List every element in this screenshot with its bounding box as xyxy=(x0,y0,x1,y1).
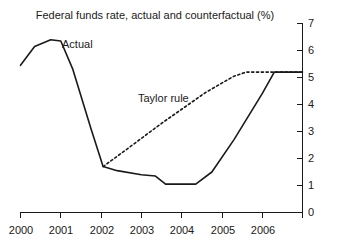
y-tick-label-0: 0 xyxy=(308,207,314,218)
x-tick-label-2006: 2006 xyxy=(251,225,275,236)
y-tick-label-3: 3 xyxy=(308,126,314,137)
chart-plot-area xyxy=(0,0,342,251)
series-line-taylor-rule xyxy=(103,72,302,167)
y-tick-label-6: 6 xyxy=(308,45,314,56)
y-tick-label-1: 1 xyxy=(308,180,314,191)
x-tick-label-2000: 2000 xyxy=(9,225,33,236)
series-line-actual xyxy=(21,40,303,184)
y-tick-label-5: 5 xyxy=(308,72,314,83)
y-tick-label-2: 2 xyxy=(308,153,314,164)
x-tick-label-2001: 2001 xyxy=(49,225,73,236)
y-tick-label-4: 4 xyxy=(308,99,314,110)
annotation-taylor-rule: Taylor rule xyxy=(138,93,189,104)
y-tick-label-7: 7 xyxy=(308,18,314,29)
x-tick-label-2002: 2002 xyxy=(90,225,114,236)
x-tick-label-2005: 2005 xyxy=(211,225,235,236)
annotation-actual: Actual xyxy=(62,39,93,50)
x-tick-label-2004: 2004 xyxy=(170,225,194,236)
chart-figure: Federal funds rate, actual and counterfa… xyxy=(0,0,342,251)
x-tick-label-2003: 2003 xyxy=(130,225,154,236)
